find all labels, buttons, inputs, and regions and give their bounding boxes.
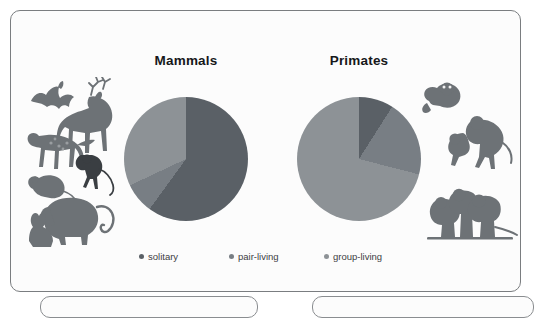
bat-icon [31, 81, 74, 109]
legend-dot-icon [324, 254, 329, 259]
main-panel: Mammals Primates solitary pair-living gr… [10, 10, 521, 292]
bottom-right-box [312, 296, 534, 318]
mammals-silhouettes [25, 77, 129, 249]
legend-item-pair-living: pair-living [229, 251, 279, 262]
legend-label: solitary [148, 251, 178, 262]
primates-silhouettes [419, 71, 531, 251]
pie-chart-mammals [124, 97, 248, 221]
monkey-icon [76, 155, 114, 195]
legend-label: pair-living [238, 251, 279, 262]
loris-icon [422, 83, 460, 114]
bottom-left-box [40, 296, 258, 318]
monkey-group-icon [427, 189, 517, 240]
chart-title-mammals: Mammals [106, 53, 266, 68]
legend-dot-icon [139, 254, 144, 259]
legend-label: group-living [333, 251, 382, 262]
chart-legend: solitary pair-living group-living [139, 251, 429, 267]
baboon-pair-icon [448, 116, 511, 169]
pie-chart-primates [297, 97, 421, 221]
chart-title-primates: Primates [279, 53, 439, 68]
legend-item-solitary: solitary [139, 251, 178, 262]
legend-dot-icon [229, 254, 234, 259]
legend-item-group-living: group-living [324, 251, 382, 262]
